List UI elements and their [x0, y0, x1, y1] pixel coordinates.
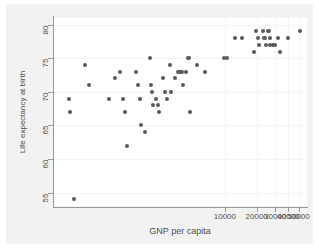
- gridline-horizontal: [54, 25, 307, 26]
- gridline-vertical: [299, 18, 300, 206]
- gridline-horizontal: [54, 92, 307, 93]
- data-point: [161, 76, 165, 80]
- data-point: [154, 97, 158, 101]
- data-point: [181, 83, 185, 87]
- y-tick-label: 70: [42, 92, 51, 101]
- data-point: [188, 110, 192, 114]
- data-point: [252, 50, 256, 54]
- data-point: [121, 97, 125, 101]
- gridline-horizontal: [54, 58, 307, 59]
- data-point: [165, 97, 169, 101]
- x-axis-title: GNP per capita: [149, 226, 210, 236]
- y-axis-title: Life expectancy at birth: [18, 71, 27, 153]
- data-point: [107, 97, 111, 101]
- data-point: [268, 36, 272, 40]
- data-point: [184, 70, 188, 74]
- data-point: [173, 76, 177, 80]
- gridline-vertical: [288, 18, 289, 206]
- data-point: [225, 56, 229, 60]
- data-point: [125, 144, 129, 148]
- data-point: [286, 36, 290, 40]
- data-point: [256, 36, 260, 40]
- data-point: [261, 29, 265, 33]
- data-point: [233, 36, 237, 40]
- data-point: [118, 70, 122, 74]
- y-tick-label: 60: [42, 160, 51, 169]
- gridline-vertical: [225, 18, 226, 206]
- data-point: [195, 63, 199, 67]
- data-point: [180, 70, 184, 74]
- data-point: [151, 103, 155, 107]
- data-point: [139, 123, 143, 127]
- data-point: [138, 97, 142, 101]
- data-point: [143, 130, 147, 134]
- data-point: [68, 110, 72, 114]
- data-point: [113, 76, 117, 80]
- data-point: [240, 36, 244, 40]
- data-point: [156, 103, 160, 107]
- data-point: [83, 63, 87, 67]
- y-tick-label: 55: [42, 193, 51, 202]
- data-point: [157, 110, 161, 114]
- data-point: [298, 29, 302, 33]
- y-tick-label: 75: [42, 59, 51, 68]
- x-axis-line: [53, 207, 308, 208]
- x-tick-label: 50000: [288, 212, 310, 221]
- data-point: [163, 90, 167, 94]
- data-point: [87, 83, 91, 87]
- data-point: [257, 43, 261, 47]
- gridline-horizontal: [54, 125, 307, 126]
- plot-area: [54, 18, 307, 206]
- data-point: [67, 97, 71, 101]
- x-tick-label: 10000: [214, 212, 236, 221]
- data-point: [134, 70, 138, 74]
- data-point: [187, 56, 191, 60]
- y-tick-label: 65: [42, 126, 51, 135]
- data-point: [203, 70, 207, 74]
- data-point: [263, 36, 267, 40]
- gridline-horizontal: [54, 193, 307, 194]
- scatter-plot-figure: 556065707580 1000020000300004000050000 L…: [0, 0, 319, 249]
- data-point: [148, 56, 152, 60]
- data-point: [169, 90, 173, 94]
- data-point: [276, 36, 280, 40]
- data-point: [136, 83, 140, 87]
- data-point: [150, 90, 154, 94]
- data-point: [149, 83, 153, 87]
- data-point: [72, 197, 76, 201]
- data-point: [273, 43, 277, 47]
- graph-region: 556065707580 1000020000300004000050000 L…: [6, 4, 313, 244]
- data-point: [267, 29, 271, 33]
- data-point: [168, 63, 172, 67]
- y-axis-line: [53, 16, 54, 208]
- data-point: [123, 110, 127, 114]
- data-point: [278, 50, 282, 54]
- data-point: [264, 43, 268, 47]
- y-tick-label: 80: [42, 25, 51, 34]
- gridline-horizontal: [54, 159, 307, 160]
